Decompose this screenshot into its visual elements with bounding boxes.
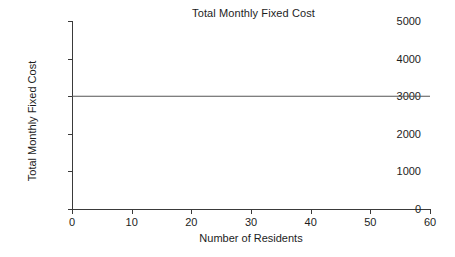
x-tick-mark xyxy=(430,210,431,214)
x-axis-title: Number of Residents xyxy=(72,232,430,244)
x-tick-label: 0 xyxy=(52,217,92,228)
x-tick-label: 20 xyxy=(171,217,211,228)
chart-title-text: Total Monthly Fixed Cost xyxy=(192,7,315,19)
x-tick-mark xyxy=(132,210,133,214)
x-tick-mark xyxy=(72,210,73,214)
x-tick-mark xyxy=(370,210,371,214)
x-tick-mark xyxy=(251,210,252,214)
y-axis-title: Total Monthly Fixed Cost xyxy=(26,26,38,216)
plot-area: 010002000300040005000 0102030405060 xyxy=(72,21,430,209)
chart-figure: Total Monthly Fixed Cost Total Monthly F… xyxy=(0,0,455,257)
x-tick-label: 30 xyxy=(231,217,271,228)
x-tick-mark xyxy=(191,210,192,214)
x-tick-label: 50 xyxy=(350,217,390,228)
x-tick-label: 40 xyxy=(291,217,331,228)
x-tick-label: 60 xyxy=(410,217,450,228)
x-tick-mark xyxy=(311,210,312,214)
x-tick-label: 10 xyxy=(112,217,152,228)
data-series-layer xyxy=(72,21,430,209)
